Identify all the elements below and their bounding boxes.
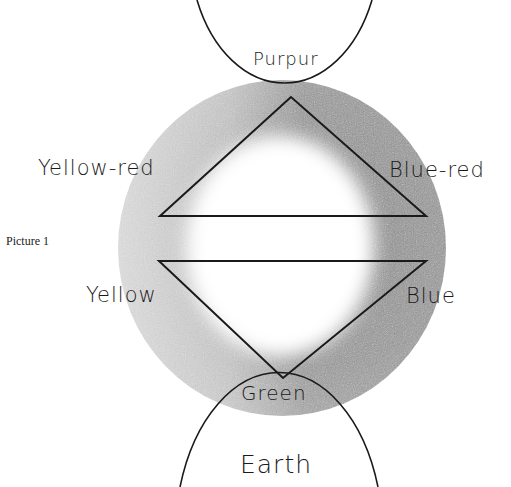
diagram-drawing — [0, 0, 511, 487]
figure-caption: Picture 1 — [6, 234, 49, 249]
label-blue-red: Blue-red — [389, 158, 485, 182]
label-purpur: Purpur — [253, 48, 319, 69]
label-earth: Earth — [240, 450, 312, 479]
color-circle-diagram: Picture 1 Purpur Yellow-red Blue-red Yel… — [0, 0, 511, 487]
label-yellow: Yellow — [86, 283, 157, 307]
label-green: Green — [241, 381, 307, 405]
label-yellow-red: Yellow-red — [38, 156, 155, 180]
label-blue: Blue — [406, 284, 456, 308]
